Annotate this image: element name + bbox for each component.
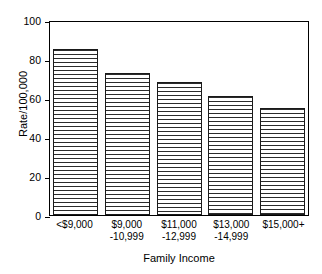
y-tick-label: 20 [29,171,41,183]
y-tick-label: 80 [29,54,41,66]
x-tick-label-line1: $11,000 [161,219,196,230]
bar-column [260,22,305,215]
bar-column [157,22,202,215]
x-tick-label-line2: -10,999 [104,231,149,243]
bar-chart: Rate/100,000 0 20 40 60 80 100 [0,0,322,274]
bar-2 [157,82,202,215]
bar-series [50,22,308,215]
x-tick-label-line2: -14,999 [209,231,254,243]
x-axis-title: Family Income [49,252,309,264]
x-tick-label-line1: $15,000+ [263,219,305,230]
x-tick-label-line2: -12,999 [157,231,202,243]
bar-3 [208,96,253,215]
x-tick-label-line1: $9,000 [111,219,142,230]
x-tick-label-4: $15,000+ [261,219,306,253]
x-tick-label-line1: <$9,000 [56,219,92,230]
plot-area: 0 20 40 60 80 100 [49,21,309,216]
x-tick-label-3: $13,000 -14,999 [209,219,254,253]
bar-1 [105,73,150,215]
y-tick-label: 100 [23,15,41,27]
y-tick-mark [45,217,50,218]
y-tick-label: 60 [29,93,41,105]
bar-column [208,22,253,215]
bar-4 [260,108,305,215]
x-tick-label-1: $9,000 -10,999 [104,219,149,253]
x-tick-label-line1: $13,000 [213,219,249,230]
bar-column [53,22,98,215]
y-axis-title: Rate/100,000 [17,34,29,174]
x-tick-label-2: $11,000 -12,999 [157,219,202,253]
bar-0 [53,49,98,215]
bar-column [105,22,150,215]
x-axis-labels: <$9,000 $9,000 -10,999 $11,000 -12,999 $… [49,219,309,253]
y-tick-label: 40 [29,132,41,144]
y-tick-label: 0 [35,210,41,222]
x-tick-label-0: <$9,000 [52,219,97,253]
